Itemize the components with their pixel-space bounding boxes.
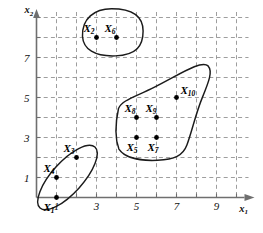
point-labels: X1X2X3X4X5X6X7X8X9X10 <box>43 22 196 216</box>
x-tick-label: 7 <box>174 200 180 212</box>
data-point-x5 <box>134 135 139 140</box>
data-point-x7 <box>154 135 159 140</box>
x-axis-title: x1 <box>238 203 248 217</box>
data-point-x4 <box>54 175 59 180</box>
y-tick-label: 3 <box>23 132 30 144</box>
x-tick-label: 9 <box>214 200 220 212</box>
x-tick-label: 3 <box>93 200 100 212</box>
scatter-cluster-figure: 135791357 X1X2X3X4X5X6X7X8X9X10 x1 x2 <box>0 0 263 233</box>
point-label-x10: X10 <box>180 84 196 99</box>
point-label-x6: X6 <box>104 22 116 37</box>
data-point-x1 <box>54 195 59 200</box>
tick-labels: 135791357 <box>23 52 220 212</box>
point-label-x2: X2 <box>83 22 95 37</box>
point-label-x5: X5 <box>126 141 138 156</box>
y-axis-title: x2 <box>24 4 34 18</box>
point-label-x4: X4 <box>43 162 55 177</box>
point-label-x8: X8 <box>124 102 136 117</box>
y-axis-arrowhead <box>33 9 40 18</box>
y-tick-label: 1 <box>24 172 30 184</box>
x-tick-label: 5 <box>134 200 140 212</box>
axis-titles: x1 x2 <box>24 4 248 216</box>
point-label-x9: X9 <box>145 102 157 117</box>
y-tick-label: 7 <box>24 52 30 64</box>
point-label-x3: X3 <box>63 142 75 157</box>
data-point-x3 <box>74 155 79 160</box>
x-axis-arrowhead <box>245 194 255 201</box>
plot-canvas: 135791357 X1X2X3X4X5X6X7X8X9X10 x1 x2 <box>0 0 263 233</box>
y-tick-label: 5 <box>24 92 30 104</box>
cluster-outlines <box>28 9 210 219</box>
data-point-x2 <box>94 35 99 40</box>
point-label-x7: X7 <box>147 141 159 156</box>
data-point-x10 <box>174 95 179 100</box>
